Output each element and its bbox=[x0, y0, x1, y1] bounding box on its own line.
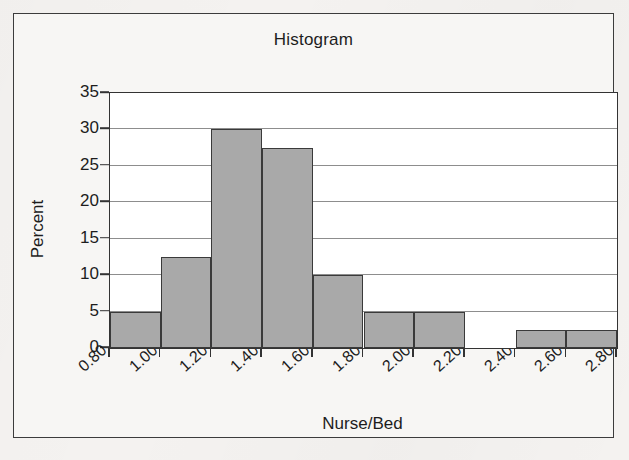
gridline-30 bbox=[110, 128, 617, 129]
gridline-25 bbox=[110, 165, 617, 166]
y-axis-tick-mark bbox=[100, 273, 109, 275]
histogram-bar bbox=[110, 312, 161, 348]
gridline-15 bbox=[110, 238, 617, 239]
histogram-bar bbox=[262, 148, 313, 348]
y-axis-tick-label: 35 bbox=[53, 82, 99, 102]
histogram-bar bbox=[161, 257, 212, 348]
y-axis-tick-mark bbox=[100, 200, 109, 202]
histogram-bar bbox=[566, 330, 617, 348]
histogram-bar bbox=[414, 312, 465, 348]
histogram-bar bbox=[211, 129, 262, 348]
screenshot-root: Histogram Percent Nurse/Bed 051015202530… bbox=[0, 0, 629, 460]
y-axis-title: Percent bbox=[28, 200, 48, 259]
y-axis-tick-label: 5 bbox=[53, 301, 99, 321]
y-axis-tick-mark bbox=[100, 128, 109, 130]
y-axis-tick-label: 10 bbox=[53, 264, 99, 284]
y-axis-tick-mark bbox=[100, 237, 109, 239]
histogram-bar bbox=[313, 275, 364, 348]
histogram-bar bbox=[516, 330, 567, 348]
y-axis-tick-mark bbox=[100, 164, 109, 166]
gridline-20 bbox=[110, 201, 617, 202]
y-axis-tick-label: 25 bbox=[53, 155, 99, 175]
chart-title: Histogram bbox=[14, 30, 613, 50]
y-axis-tick-mark bbox=[100, 91, 109, 93]
plot-area bbox=[109, 92, 618, 349]
x-axis-title: Nurse/Bed bbox=[109, 414, 616, 434]
y-axis-tick-label: 30 bbox=[53, 118, 99, 138]
histogram-bar bbox=[364, 312, 415, 348]
figure-frame: Histogram Percent Nurse/Bed 051015202530… bbox=[13, 13, 614, 438]
y-axis-tick-label: 15 bbox=[53, 228, 99, 248]
y-axis-tick-mark bbox=[100, 310, 109, 312]
y-axis-tick-label: 20 bbox=[53, 191, 99, 211]
